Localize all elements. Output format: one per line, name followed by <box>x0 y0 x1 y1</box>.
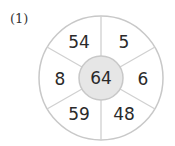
segment-bottom-left: 59 <box>68 104 90 124</box>
segment-bottom-right: 48 <box>113 104 135 124</box>
segment-right: 6 <box>138 69 149 89</box>
segment-left: 8 <box>55 69 66 89</box>
center-number: 64 <box>90 68 112 88</box>
segment-top-left: 54 <box>68 32 90 52</box>
segment-top-right: 5 <box>119 32 130 52</box>
number-wheel: 64 5 6 48 59 8 54 <box>0 0 175 146</box>
